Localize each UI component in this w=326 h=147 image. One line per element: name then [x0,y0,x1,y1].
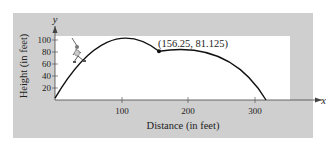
vertex-point [157,49,161,53]
x-tick-label: 100 [115,106,129,116]
y-axis-title: Height (in feet) [18,33,30,98]
y-axis-symbol: y [52,14,58,25]
y-tick-label: 100 [38,35,52,45]
y-tick-label: 80 [42,47,52,57]
y-axis-arrow-icon [53,26,58,33]
x-axis-title: Distance (in feet) [147,120,220,132]
x-tick-label: 300 [248,106,262,116]
x-tick-label: 200 [181,106,195,116]
chart-svg: x y 100 200 300 20 40 60 80 100 Distance… [0,0,326,147]
y-tick-label: 60 [42,59,52,69]
vertex-label: (156.25, 81.125) [158,38,228,50]
x-axis-symbol: x [320,95,326,106]
y-tick-label: 40 [42,71,52,81]
y-tick-label: 20 [42,83,52,93]
